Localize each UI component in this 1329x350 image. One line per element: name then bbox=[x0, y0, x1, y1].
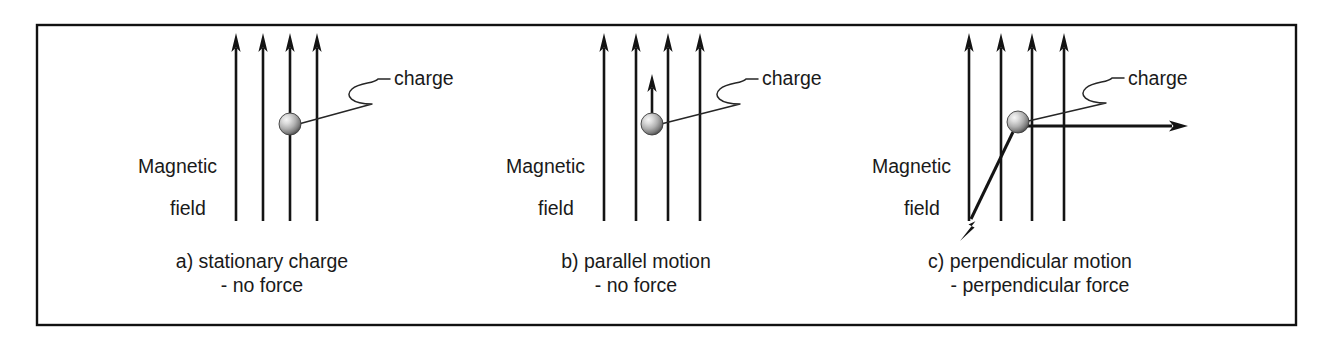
velocity-arrow-c-right bbox=[1022, 121, 1188, 132]
velocity-arrow-b bbox=[647, 74, 656, 114]
force-shaft bbox=[971, 132, 1013, 219]
panel-b: charge Magnetic field b) parallel motion… bbox=[506, 33, 822, 296]
charge-leader-line bbox=[295, 79, 390, 125]
caption-c-line2: - perpendicular force bbox=[951, 274, 1130, 296]
field-label-c: field bbox=[904, 197, 940, 219]
caption-b-line1: b) parallel motion bbox=[561, 250, 711, 272]
magnetic-label-b: Magnetic bbox=[506, 155, 585, 177]
charge-label-a: charge bbox=[394, 67, 454, 89]
charge-sphere bbox=[641, 113, 663, 135]
field-label-a: field bbox=[170, 197, 206, 219]
panel-c: charge Magnetic field c) perpendicular m… bbox=[872, 33, 1188, 296]
charge-label-b: charge bbox=[762, 67, 822, 89]
caption-c-line1: c) perpendicular motion bbox=[928, 250, 1132, 272]
charge-sphere bbox=[279, 113, 301, 135]
charge-sphere bbox=[1007, 111, 1029, 133]
field-label-b: field bbox=[538, 197, 574, 219]
magnetic-label-a: Magnetic bbox=[138, 155, 217, 177]
figure-root: charge Magnetic field a) stationary char… bbox=[0, 0, 1329, 350]
charge-leader-line bbox=[1024, 78, 1124, 122]
magnetic-label-c: Magnetic bbox=[872, 155, 951, 177]
caption-a-line1: a) stationary charge bbox=[176, 250, 348, 272]
field-lines-a bbox=[231, 33, 321, 221]
charge-leader-line bbox=[657, 79, 758, 125]
magnetic-force-diagram: charge Magnetic field a) stationary char… bbox=[0, 0, 1329, 350]
caption-a-line2: - no force bbox=[221, 274, 303, 296]
charge-label-c: charge bbox=[1128, 67, 1188, 89]
force-arrowhead-icon bbox=[960, 221, 975, 241]
caption-b-line2: - no force bbox=[595, 274, 677, 296]
panel-a: charge Magnetic field a) stationary char… bbox=[138, 33, 454, 296]
